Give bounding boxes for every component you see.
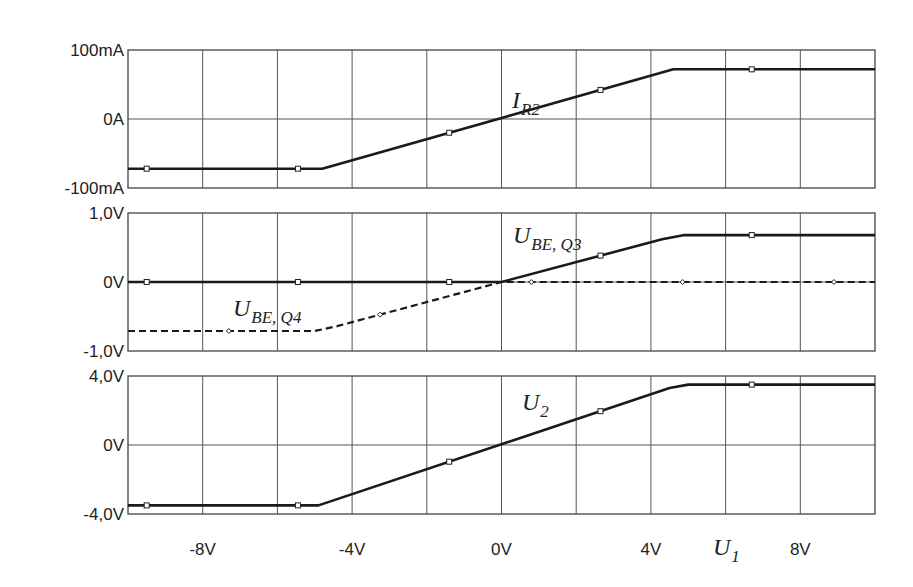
data-marker: [447, 280, 452, 285]
data-marker: [749, 67, 754, 72]
x-tick-label: -8V: [189, 540, 216, 559]
data-marker: [749, 233, 754, 238]
x-tick-label: 4V: [641, 540, 662, 559]
data-marker: [598, 253, 603, 258]
y-tick-label: 4,0V: [89, 367, 125, 386]
data-marker: [447, 130, 452, 135]
ube-panel: 1,0V0V-1,0VUBE, Q3UBE, Q4: [83, 204, 875, 361]
data-marker: [749, 382, 754, 387]
series-label: U2: [522, 389, 549, 421]
transfer-characteristic-chart: 100mA0A-100mAIR21,0V0V-1,0VUBE, Q3UBE, Q…: [0, 0, 913, 587]
current-panel: 100mA0A-100mAIR2: [64, 41, 875, 198]
series-label: UBE, Q3: [513, 222, 581, 254]
y-tick-label: 0V: [103, 436, 124, 455]
x-tick-label: 0V: [491, 540, 512, 559]
data-marker: [226, 328, 231, 333]
y-tick-label: 1,0V: [89, 204, 125, 223]
data-marker: [144, 166, 149, 171]
data-marker: [447, 459, 452, 464]
data-marker: [295, 166, 300, 171]
data-marker: [144, 280, 149, 285]
series-label: UBE, Q4: [233, 295, 302, 327]
data-marker: [295, 503, 300, 508]
y-tick-label: 0V: [103, 273, 124, 292]
data-marker: [529, 280, 534, 285]
y-tick-label: 100mA: [70, 41, 125, 60]
data-marker: [378, 312, 383, 317]
x-axis: -8V-4V0V4V8VU1: [189, 534, 811, 566]
data-marker: [680, 280, 685, 285]
y-tick-label: -1,0V: [83, 342, 124, 361]
x-axis-label: U1: [713, 534, 740, 566]
data-marker: [831, 280, 836, 285]
x-tick-label: 8V: [790, 540, 811, 559]
x-tick-label: -4V: [339, 540, 366, 559]
chart-panels: 100mA0A-100mAIR21,0V0V-1,0VUBE, Q3UBE, Q…: [64, 41, 875, 524]
output-panel: 4,0V0V-4,0VU2: [83, 367, 875, 524]
y-tick-label: -4,0V: [83, 505, 124, 524]
data-marker: [144, 503, 149, 508]
data-marker: [598, 87, 603, 92]
y-tick-label: 0A: [103, 110, 124, 129]
data-marker: [295, 280, 300, 285]
y-tick-label: -100mA: [64, 179, 124, 198]
data-marker: [598, 409, 603, 414]
